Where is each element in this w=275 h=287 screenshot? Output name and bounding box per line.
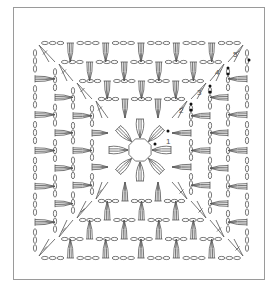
- round-label-2: 2: [179, 106, 184, 115]
- round-label-5: 5: [233, 50, 238, 59]
- round-label-1: 1: [166, 137, 171, 146]
- slip-stitch-markers: [154, 59, 251, 146]
- crochet-chart: 12345: [0, 0, 275, 287]
- round-label-3: 3: [197, 88, 202, 97]
- round-label-4: 4: [215, 68, 220, 77]
